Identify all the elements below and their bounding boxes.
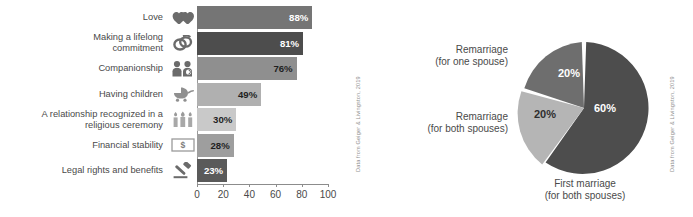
gavel-icon: [168, 159, 197, 182]
axis-line: [197, 184, 328, 185]
bar-row: Legal rights and benefits 23%: [0, 159, 340, 182]
axis-tick-label: 20: [218, 189, 229, 200]
bar-row-label: A relationship recognized in a religious…: [0, 109, 168, 130]
bar-row-label: Making a lifelong commitment: [0, 32, 168, 53]
axis-tick: [302, 184, 303, 187]
couple-icon: [168, 57, 197, 80]
dollar-bill-icon: $: [168, 134, 197, 157]
pie-slice-percent: 20%: [534, 108, 556, 120]
bar-row-label: Love: [0, 12, 168, 23]
pie-callout-remarriage-both-spouses: Remarriage (for both spouses): [378, 111, 508, 136]
axis-tick: [223, 184, 224, 187]
bar-row: Financial stability $ 28%: [0, 134, 340, 157]
bar-row-label: Companionship: [0, 63, 168, 74]
svg-text:$: $: [180, 140, 185, 150]
bar-fill: 76%: [197, 57, 297, 80]
axis-tick-label: 80: [296, 189, 307, 200]
bar-value: 76%: [273, 63, 296, 74]
bar-fill: 30%: [197, 108, 236, 131]
axis-tick-label: 100: [320, 189, 337, 200]
bar-track: 81%: [197, 32, 328, 55]
bar-track: 28%: [197, 134, 328, 157]
axis-tick-label: 40: [244, 189, 255, 200]
two-hearts-icon: [168, 6, 197, 29]
axis-tick: [249, 184, 250, 187]
bar-chart-source-credit: Data from Geiger & Livingston, 2019: [355, 76, 361, 172]
axis-tick: [197, 184, 198, 187]
axis-tick: [328, 184, 329, 187]
bar-row: Love 88%: [0, 6, 340, 29]
bar-row: Making a lifelong commitment 81%: [0, 32, 340, 55]
bar-chart-x-axis: 0 20 40 60 80 100: [197, 184, 328, 214]
axis-tick-label: 0: [194, 189, 200, 200]
candles-icon: [168, 108, 197, 131]
figure-canvas: Love 88% Making a lifelong commitment: [0, 0, 693, 217]
bar-fill: 28%: [197, 134, 234, 157]
pie-chart: 60% 20% 20% Remarriage (for one spouse) …: [372, 0, 693, 217]
bar-value: 28%: [210, 140, 233, 151]
bar-row: Companionship 76%: [0, 57, 340, 80]
bar-fill: 88%: [197, 6, 312, 29]
stroller-icon: [168, 83, 197, 106]
axis-tick: [276, 184, 277, 187]
pie-callout-first-marriage: First marriage (for both spouses): [512, 178, 658, 203]
bar-row: Having children 49%: [0, 83, 340, 106]
bar-track: 88%: [197, 6, 328, 29]
bar-chart-rows: Love 88% Making a lifelong commitment: [0, 6, 340, 185]
bar-row: A relationship recognized in a religious…: [0, 108, 340, 131]
bar-value: 81%: [280, 38, 303, 49]
bar-value: 30%: [213, 114, 236, 125]
bar-value: 23%: [204, 165, 227, 176]
bar-row-label: Legal rights and benefits: [0, 165, 168, 176]
bar-fill: 81%: [197, 32, 303, 55]
axis-tick-label: 60: [270, 189, 281, 200]
bar-track: 23%: [197, 159, 328, 182]
bar-value: 49%: [238, 89, 261, 100]
bar-fill: 49%: [197, 83, 261, 106]
bar-track: 30%: [197, 108, 328, 131]
bar-row-label: Having children: [0, 89, 168, 100]
pie-slice-percent: 20%: [558, 67, 580, 79]
wedding-rings-icon: [168, 32, 197, 55]
pie-slice-percent: 60%: [594, 102, 616, 114]
bar-track: 76%: [197, 57, 328, 80]
bar-chart: Love 88% Making a lifelong commitment: [0, 0, 372, 217]
bar-track: 49%: [197, 83, 328, 106]
bar-fill: 23%: [197, 159, 227, 182]
bar-row-label: Financial stability: [0, 140, 168, 151]
pie-graphic: 60% 20% 20%: [516, 40, 652, 176]
pie-chart-source-credit: Data from Geiger & Livingston, 2019: [669, 76, 675, 172]
bar-value: 88%: [289, 12, 312, 23]
pie-callout-remarriage-one-spouse: Remarriage (for one spouse): [400, 44, 508, 69]
